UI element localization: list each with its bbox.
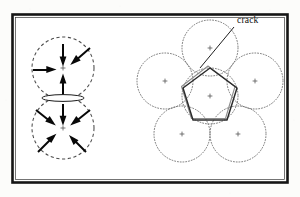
crack-label: crack <box>237 14 259 25</box>
figure-canvas: crack <box>0 0 300 197</box>
contact-crack-lens <box>42 95 84 102</box>
figure-root: crack <box>0 0 300 197</box>
